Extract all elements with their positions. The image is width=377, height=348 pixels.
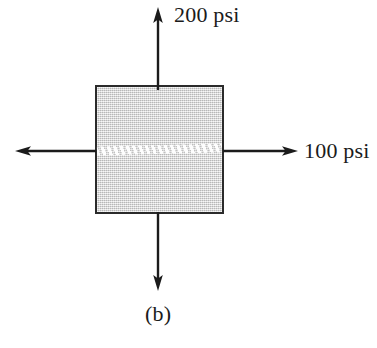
figure-caption: (b) bbox=[145, 301, 171, 327]
stress-element-square bbox=[95, 85, 224, 214]
arrow-right-icon bbox=[220, 140, 304, 164]
horizontal-stress-label: 100 psi bbox=[304, 138, 370, 164]
arrow-left-icon bbox=[10, 140, 98, 164]
vertical-stress-label: 200 psi bbox=[174, 2, 240, 28]
arrow-down-icon bbox=[146, 210, 170, 296]
stress-element-figure: 200 psi 100 psi (b) bbox=[0, 0, 377, 348]
arrow-up-icon bbox=[146, 6, 170, 90]
